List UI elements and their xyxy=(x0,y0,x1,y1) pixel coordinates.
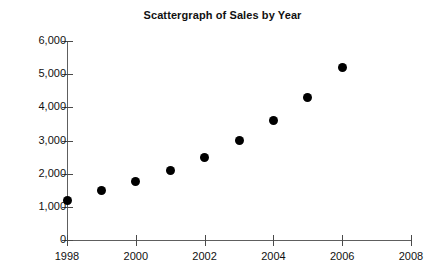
data-point xyxy=(97,186,106,195)
data-point xyxy=(63,196,72,205)
y-axis-tick-label: 2,000 xyxy=(6,167,66,179)
x-axis-tick-label: 2000 xyxy=(106,250,166,262)
data-point xyxy=(338,63,347,72)
y-axis-tick-label: 3,000 xyxy=(6,134,66,146)
x-axis-tick xyxy=(411,235,412,246)
x-axis-tick xyxy=(342,235,343,246)
x-axis-tick-label: 2004 xyxy=(243,250,303,262)
y-axis-tick-label: 0 xyxy=(6,233,66,245)
data-point xyxy=(166,166,175,175)
y-axis-tick-label: 4,000 xyxy=(6,100,66,112)
y-axis-tick-label: 1,000 xyxy=(6,200,66,212)
y-axis-tick-label: 6,000 xyxy=(6,34,66,46)
data-point xyxy=(131,177,140,186)
x-axis-tick-label: 2002 xyxy=(175,250,235,262)
x-axis-tick xyxy=(205,235,206,246)
x-axis-line xyxy=(67,240,411,241)
x-axis-tick xyxy=(273,235,274,246)
x-axis-tick-label: 2008 xyxy=(381,250,441,262)
x-axis-tick xyxy=(67,235,68,246)
data-point xyxy=(235,136,244,145)
data-point xyxy=(269,116,278,125)
y-axis-tick-label: 5,000 xyxy=(6,67,66,79)
data-point xyxy=(303,93,312,102)
x-axis-tick xyxy=(136,235,137,246)
plot-area: 01,0002,0003,0004,0005,0006,000 19982000… xyxy=(0,0,445,277)
scatter-chart: Scattergraph of Sales by Year 01,0002,00… xyxy=(0,0,445,277)
data-point xyxy=(200,153,209,162)
x-axis-tick-label: 1998 xyxy=(37,250,97,262)
x-axis-tick-label: 2006 xyxy=(312,250,372,262)
